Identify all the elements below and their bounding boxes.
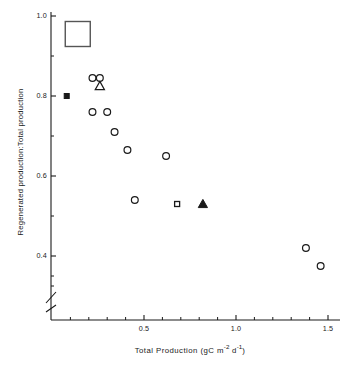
y-axis-tick-label: 0.4 <box>25 251 47 260</box>
data-point-filled-square <box>64 94 69 99</box>
data-point-open-circle <box>163 153 170 160</box>
y-axis-tick-label: 0.6 <box>25 171 47 180</box>
x-axis-title-main: Total Production (gC m <box>135 346 224 355</box>
data-point-open-circle <box>89 109 96 116</box>
x-axis-tick-label: 1.0 <box>224 324 248 333</box>
y-axis-tick-label: 0.8 <box>25 91 47 100</box>
data-point-filled-triangle <box>198 199 207 207</box>
data-point-open-circle <box>131 197 138 204</box>
x-axis-title-close-paren: ) <box>242 346 245 355</box>
y-axis-title: Regenerated production:Total production <box>14 12 28 312</box>
data-point-open-square <box>175 202 180 207</box>
data-point-open-circle <box>89 75 96 82</box>
plot-canvas <box>0 0 353 365</box>
data-point-open-circle <box>111 129 118 136</box>
data-point-open-circle <box>317 263 324 270</box>
x-axis-tick-label: 0.5 <box>132 324 156 333</box>
x-axis-title-middle: d <box>229 346 236 355</box>
y-axis-tick-label: 1.0 <box>25 11 47 20</box>
data-point-open-circle <box>303 245 310 252</box>
legend-open-square-large <box>65 22 90 47</box>
data-point-open-circle <box>124 147 131 154</box>
x-axis-tick-label: 1.5 <box>316 324 340 333</box>
x-axis-title: Total Production (gC m-2 d-1) <box>40 343 340 355</box>
scatter-plot-figure: Regenerated production:Total production … <box>0 0 353 365</box>
data-point-open-circle <box>104 109 111 116</box>
data-point-open-triangle <box>95 81 104 89</box>
